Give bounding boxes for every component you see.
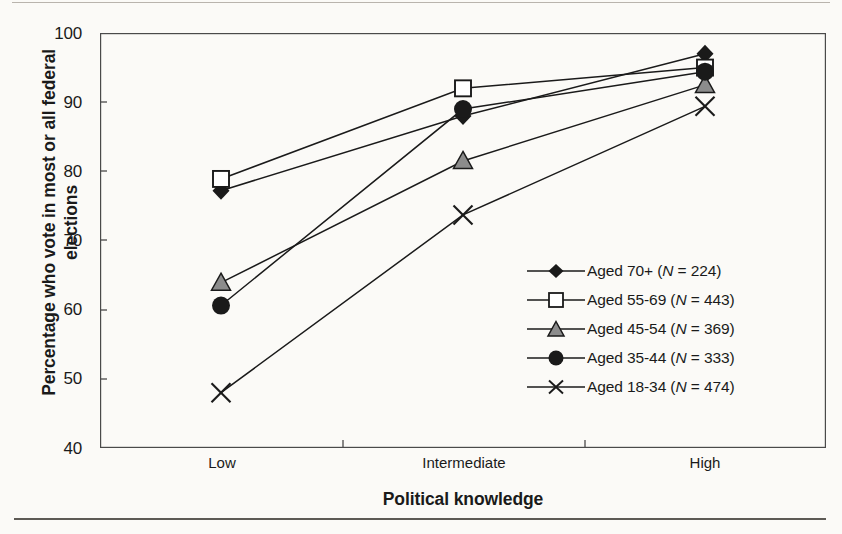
legend-item-aged-35-44: Aged 35-44 (N = 333) [525, 343, 735, 372]
legend-label-aged-45-54: Aged 45-54 (N = 369) [587, 321, 735, 337]
legend-label-aged-18-34: Aged 18-34 (N = 474) [587, 379, 735, 395]
legend-label-aged-70-plus: Aged 70+ (N = 224) [587, 263, 721, 279]
y-tick-label-40: 40 [30, 440, 82, 457]
top-divider-rule [12, 2, 830, 3]
open-square-marker-icon [525, 290, 587, 310]
legend-item-aged-55-69: Aged 55-69 (N = 443) [525, 285, 735, 314]
y-tick-label-60: 60 [30, 301, 82, 318]
legend-label-aged-35-44: Aged 35-44 (N = 333) [587, 350, 735, 366]
y-tick-label-100: 100 [30, 25, 82, 42]
x-tick-label-high: High [645, 455, 765, 470]
figure-panel: Percentage who vote in most or all feder… [0, 0, 842, 534]
filled-circle-marker-icon [525, 348, 587, 368]
legend-item-aged-18-34: Aged 18-34 (N = 474) [525, 372, 735, 401]
legend-item-aged-70-plus: Aged 70+ (N = 224) [525, 256, 735, 285]
y-tick-label-80: 80 [30, 163, 82, 180]
gray-triangle-marker-icon [525, 319, 587, 339]
x-tick-label-intermediate: Intermediate [394, 455, 534, 470]
y-tick-label-70: 70 [30, 232, 82, 249]
filled-diamond-marker-icon [525, 261, 587, 281]
legend-item-aged-45-54: Aged 45-54 (N = 369) [525, 314, 735, 343]
y-tick-label-50: 50 [30, 370, 82, 387]
chart-legend: Aged 70+ (N = 224) Aged 55-69 (N = 443) … [525, 256, 735, 401]
bottom-divider-rule [14, 518, 826, 520]
x-tick-label-low: Low [162, 455, 282, 470]
series-filled-diamond [213, 45, 714, 200]
cross-marker-icon [525, 377, 587, 397]
legend-label-aged-55-69: Aged 55-69 (N = 443) [587, 292, 735, 308]
x-axis-title: Political knowledge [100, 489, 826, 510]
y-tick-label-90: 90 [30, 94, 82, 111]
